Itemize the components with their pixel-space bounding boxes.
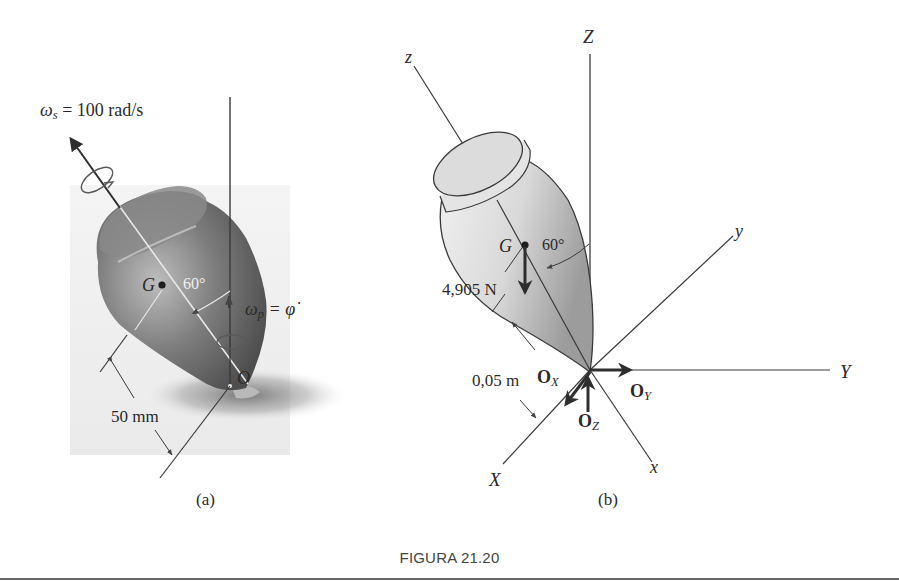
spin-value: = 100 rad/s xyxy=(62,100,143,120)
precession-symbol: ω xyxy=(245,299,258,319)
label-G-b: G xyxy=(499,237,512,255)
reaction-Ox-letter: O xyxy=(537,367,551,387)
panel-label-a: (a) xyxy=(196,491,215,508)
reaction-Oz-letter: O xyxy=(578,411,592,431)
reaction-Oy-subscript: Y xyxy=(644,389,651,403)
reaction-Oz-subscript: Z xyxy=(592,419,599,433)
angle-label-a: 60° xyxy=(183,276,205,292)
label-G-a: G xyxy=(142,276,155,294)
dimension-arrow-b2 xyxy=(520,400,536,418)
precession-subscript: p xyxy=(258,307,264,321)
label-axis-y: y xyxy=(735,222,743,240)
precession-label: ωp = φ̇ xyxy=(245,300,295,321)
panel-b xyxy=(414,54,830,464)
reaction-Oz-label: OZ xyxy=(578,412,599,433)
panel-label-b: (b) xyxy=(598,491,618,508)
spin-rate-label: ωs = 100 rad/s xyxy=(40,101,143,122)
reaction-Ox-label: OX xyxy=(537,368,559,389)
label-O: O xyxy=(237,369,250,387)
figure-caption: FIGURA 21.20 xyxy=(0,549,899,566)
spin-subscript: s xyxy=(53,108,58,122)
reaction-Oy-letter: O xyxy=(630,381,644,401)
distance-label-b: 0,05 m xyxy=(472,372,519,389)
bottom-rule xyxy=(0,578,899,580)
axis-y-line xyxy=(590,236,733,370)
distance-label-a: 50 mm xyxy=(111,408,159,425)
center-of-mass-dot xyxy=(158,281,165,288)
label-axis-X: X xyxy=(489,470,501,489)
label-axis-z: z xyxy=(405,48,412,66)
reaction-Ox-arrow xyxy=(566,372,590,404)
label-axis-Z: Z xyxy=(583,27,594,46)
precession-equation: = φ̇ xyxy=(269,299,296,319)
label-axis-Y: Y xyxy=(840,362,851,381)
angle-label-b: 60° xyxy=(542,237,564,253)
weight-label: 4,905 N xyxy=(442,281,497,298)
reaction-Ox-subscript: X xyxy=(551,375,559,389)
spin-symbol: ω xyxy=(40,100,53,120)
reaction-Oy-label: OY xyxy=(630,382,651,403)
label-axis-x: x xyxy=(650,458,658,476)
